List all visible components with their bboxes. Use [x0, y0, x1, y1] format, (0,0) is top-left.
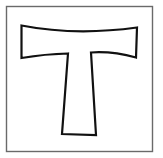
- tau-cross-figure: [0, 0, 163, 158]
